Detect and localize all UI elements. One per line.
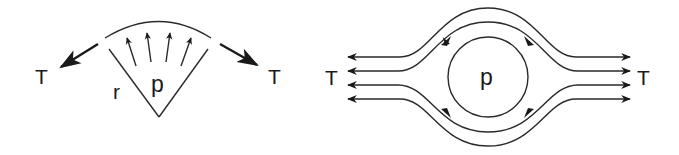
tension-label-right: T (268, 65, 281, 88)
force-line-inner-bottom (348, 85, 630, 132)
pressure-arrows (127, 33, 191, 66)
pressure-arrow-icon (147, 33, 151, 62)
pressure-label: p (151, 71, 164, 97)
tension-arrow-right-icon (220, 44, 257, 65)
sector-diagram: T T r p (35, 22, 281, 118)
sphere-diagram: p T T (325, 8, 650, 146)
sphere-tension-label-left: T (325, 66, 338, 89)
pressure-arrow-icon (127, 38, 136, 66)
force-line-outer-top (348, 8, 630, 57)
tension-arrow-left-icon (61, 44, 98, 67)
sphere-pressure-label: p (480, 64, 493, 90)
sphere-tension-label-right: T (637, 66, 650, 89)
pressure-arrow-icon (181, 38, 191, 66)
force-line-outer-bottom (348, 99, 630, 146)
tension-label-left: T (35, 65, 48, 88)
radius-label: r (113, 80, 120, 103)
diagram-canvas: T T r p p T T (0, 0, 679, 155)
membrane-arc (105, 22, 211, 39)
arc-arrow-icon (524, 108, 534, 118)
pressure-arrow-icon (166, 33, 170, 62)
